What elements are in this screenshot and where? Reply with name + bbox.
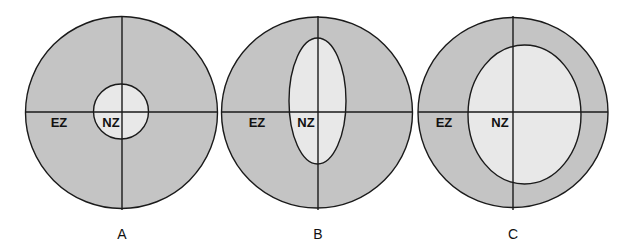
panel-a: EZ NZ A <box>26 16 218 242</box>
panel-c: EZ NZ C <box>418 16 608 242</box>
inner-zone-label: NZ <box>102 115 119 130</box>
outer-zone-label: EZ <box>249 115 266 130</box>
inner-zone-label: NZ <box>297 115 314 130</box>
panel-caption: B <box>313 226 322 242</box>
outer-zone-label: EZ <box>51 115 68 130</box>
inner-zone <box>468 45 581 184</box>
outer-zone-label: EZ <box>436 115 453 130</box>
panel-b: EZ NZ B <box>222 16 413 242</box>
panel-caption: C <box>508 226 518 242</box>
inner-zone-label: NZ <box>491 115 508 130</box>
zone-diagram: EZ NZ A EZ NZ B EZ NZ C <box>0 0 630 249</box>
panel-caption: A <box>117 226 127 242</box>
